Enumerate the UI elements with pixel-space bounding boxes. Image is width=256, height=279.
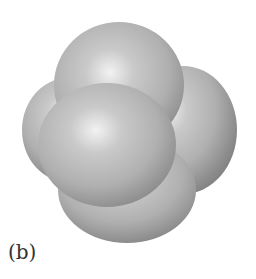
sphere-group — [22, 22, 237, 243]
front-sphere — [38, 83, 176, 207]
figure-label: (b) — [8, 240, 36, 264]
molecule-model — [0, 0, 256, 279]
